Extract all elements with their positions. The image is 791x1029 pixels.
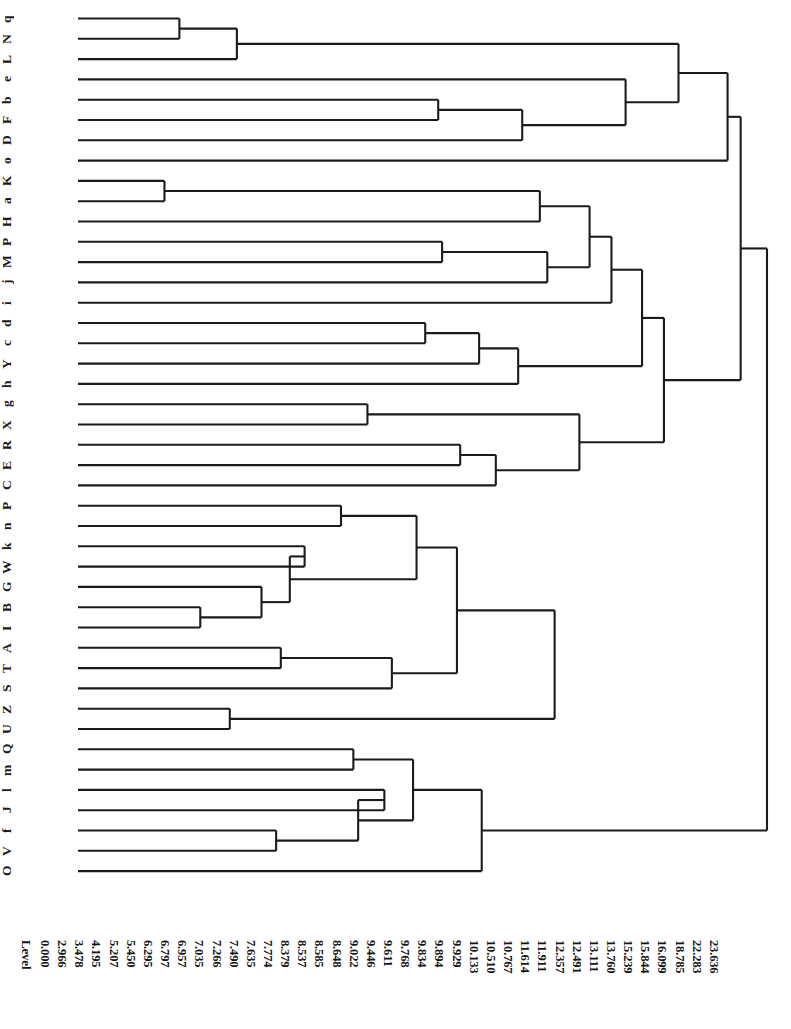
level-tick: 9.768: [396, 940, 412, 1026]
axis-title: Level: [18, 940, 34, 1026]
dendrogram-page: qNLebFDoKaHPMjidcYhgXRECPnkWGBIATSZUQmlJ…: [0, 0, 791, 1029]
level-tick: 9.929: [448, 940, 464, 1026]
level-tick: 16.099: [653, 940, 669, 1026]
level-tick: 13.760: [602, 940, 618, 1026]
level-tick: 6.957: [173, 940, 189, 1026]
level-tick: 7.635: [242, 940, 258, 1026]
level-tick: 13.111: [585, 940, 601, 1026]
level-tick: 7.266: [208, 940, 224, 1026]
level-tick: 6.295: [139, 940, 155, 1026]
level-tick: 9.446: [362, 940, 378, 1026]
level-axis: Level0.0002.9663.4784.1955.2075.4506.295…: [0, 938, 791, 1029]
level-tick: 10.510: [482, 940, 498, 1026]
level-tick: 8.585: [310, 940, 326, 1026]
level-tick: 5.450: [122, 940, 138, 1026]
level-tick: 0.000: [36, 940, 52, 1026]
level-tick: 3.478: [70, 940, 86, 1026]
level-tick: 18.785: [671, 940, 687, 1026]
level-tick: 22.283: [688, 940, 704, 1026]
level-tick: 8.379: [276, 940, 292, 1026]
level-tick: 23.636: [705, 940, 721, 1026]
level-tick: 10.767: [499, 940, 515, 1026]
level-tick: 15.844: [636, 940, 652, 1026]
level-tick: 12.491: [568, 940, 584, 1026]
level-tick: 7.774: [259, 940, 275, 1026]
level-tick: 9.894: [430, 940, 446, 1026]
level-tick: 11.911: [533, 940, 549, 1026]
level-tick: 9.834: [413, 940, 429, 1026]
level-tick: 8.648: [328, 940, 344, 1026]
level-tick: 6.797: [156, 940, 172, 1026]
level-tick: 4.195: [87, 940, 103, 1026]
level-tick: 11.614: [516, 940, 532, 1026]
level-tick: 7.490: [225, 940, 241, 1026]
level-tick: 10.133: [465, 940, 481, 1026]
level-tick: 8.537: [293, 940, 309, 1026]
level-tick: 5.207: [105, 940, 121, 1026]
level-tick: 9.022: [345, 940, 361, 1026]
level-tick: 12.357: [551, 940, 567, 1026]
level-tick: 9.611: [379, 940, 395, 1026]
level-tick: 7.035: [190, 940, 206, 1026]
level-tick: 15.239: [619, 940, 635, 1026]
level-tick: 2.966: [53, 940, 69, 1026]
dendrogram-plot: [0, 0, 791, 940]
